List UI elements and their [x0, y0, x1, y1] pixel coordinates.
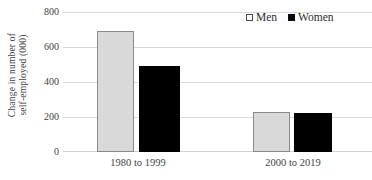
bar-chart: Change in number of self-employed (000) … — [0, 0, 372, 180]
bar-men-1980-to-1999[interactable] — [97, 31, 134, 152]
legend-swatch-men-icon — [246, 14, 253, 21]
x-category-label-0: 1980 to 1999 — [83, 157, 193, 169]
y-axis-title: Change in number of self-employed (000) — [7, 6, 29, 144]
legend-label-men: Men — [256, 11, 277, 24]
y-axis-title-line-1: Change in number of — [7, 6, 18, 144]
legend-item-women[interactable]: Women — [288, 11, 333, 24]
legend-swatch-women-icon — [288, 14, 295, 21]
y-tick-label-200: 200 — [19, 112, 59, 122]
y-tick-label-400: 400 — [19, 77, 59, 87]
legend: Men Women — [246, 11, 334, 24]
bar-women-1980-to-1999[interactable] — [139, 66, 180, 152]
bar-women-2000-to-2019[interactable] — [294, 113, 332, 152]
bar-men-2000-to-2019[interactable] — [253, 112, 290, 152]
legend-label-women: Women — [298, 11, 333, 24]
y-tick-label-800: 800 — [19, 7, 59, 17]
x-category-label-1: 2000 to 2019 — [238, 157, 348, 169]
y-tick-label-600: 600 — [19, 42, 59, 52]
legend-item-men[interactable]: Men — [246, 11, 277, 24]
plot-area — [63, 12, 372, 152]
y-axis-title-line-2: self-employed (000) — [18, 6, 29, 144]
y-tick-label-0: 0 — [19, 147, 59, 157]
